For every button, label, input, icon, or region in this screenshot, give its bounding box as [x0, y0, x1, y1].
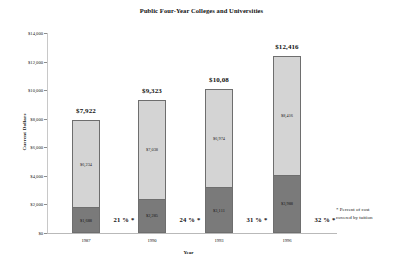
bar-group: $8,416$3,988 — [273, 33, 301, 233]
y-axis-tick-label: $12,000 — [28, 59, 47, 64]
bar-segment-tuition[interactable]: $3,111 — [206, 188, 232, 232]
y-axis-tick-label: $0 — [38, 231, 47, 236]
bar-segment-label: $3,988 — [281, 201, 293, 206]
bar-segment-label: $6,974 — [213, 136, 225, 141]
x-axis-title: Year — [47, 250, 330, 255]
percent-annotation: 24 % * — [180, 216, 201, 223]
bar-group: $7,038$2,285 — [138, 33, 166, 233]
x-axis-tick-label: 1996 — [282, 238, 291, 243]
percent-annotation: 31 % * — [247, 216, 268, 223]
percent-annotation: 32 % * — [315, 216, 336, 223]
x-axis-tick-label: 1990 — [147, 238, 156, 243]
stacked-bar[interactable]: $8,416$3,988 — [273, 56, 301, 233]
bar-total-label: $7,922 — [76, 107, 96, 115]
stacked-bar[interactable]: $7,038$2,285 — [138, 100, 166, 233]
bar-segment-label: $3,111 — [213, 208, 225, 213]
footnote-line-2: covered by tuition — [336, 214, 402, 222]
bar-segment-label: $8,416 — [281, 113, 293, 118]
bar-group: $6,234$1,688 — [72, 33, 100, 233]
x-axis-line — [47, 233, 337, 234]
stacked-bar[interactable]: $6,974$3,111 — [205, 89, 233, 233]
bar-segment-other-cost[interactable]: $8,416 — [274, 57, 300, 176]
x-axis-tick-label: 1993 — [214, 238, 223, 243]
y-axis-tick-label: $2,000 — [30, 202, 47, 207]
bar-segment-label: $6,234 — [80, 162, 92, 167]
y-axis-tick-label: $14,000 — [28, 31, 47, 36]
bar-segment-label: $2,285 — [146, 213, 158, 218]
bar-segment-tuition[interactable]: $2,285 — [139, 200, 165, 232]
plot-area: $0$2,000$4,000$6,000$8,000$10,000$12,000… — [47, 33, 330, 233]
bar-segment-tuition[interactable]: $1,688 — [73, 208, 99, 232]
chart-title: Public Four-Year Colleges and Universiti… — [0, 7, 403, 14]
footnote: * Percent of cost covered by tuition — [336, 206, 402, 221]
stacked-bar[interactable]: $6,234$1,688 — [72, 120, 100, 233]
y-axis-tick-label: $4,000 — [30, 173, 47, 178]
bar-segment-other-cost[interactable]: $7,038 — [139, 101, 165, 200]
bar-segment-label: $7,038 — [146, 147, 158, 152]
bar-total-label: $10,08 — [209, 76, 229, 84]
bar-total-label: $12,416 — [275, 43, 298, 51]
bar-segment-other-cost[interactable]: $6,234 — [73, 121, 99, 208]
percent-annotation: 21 % * — [114, 216, 135, 223]
y-axis-tick-label: $8,000 — [30, 116, 47, 121]
footnote-line-1: * Percent of cost — [336, 206, 402, 214]
y-axis-title: Current Dollars — [22, 113, 27, 150]
bar-total-label: $9,323 — [142, 87, 162, 95]
bar-segment-tuition[interactable]: $3,988 — [274, 176, 300, 232]
x-axis-tick-label: 1987 — [81, 238, 90, 243]
bar-segment-other-cost[interactable]: $6,974 — [206, 90, 232, 188]
bar-segment-label: $1,688 — [80, 218, 92, 223]
chart-container: Public Four-Year Colleges and Universiti… — [0, 0, 403, 263]
y-axis-tick-label: $6,000 — [30, 145, 47, 150]
bar-group: $6,974$3,111 — [205, 33, 233, 233]
y-axis-tick-label: $10,000 — [28, 88, 47, 93]
